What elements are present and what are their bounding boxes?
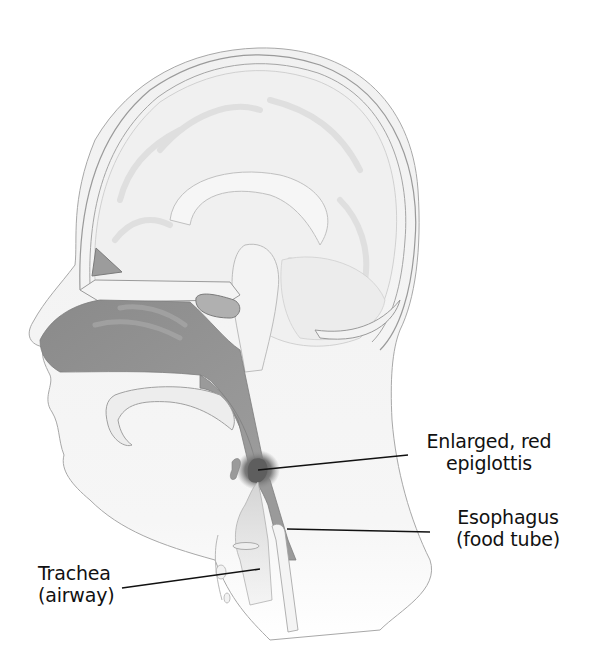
- label-epiglottis-line2: epiglottis: [404, 452, 574, 474]
- tracheal-ring: [233, 543, 259, 550]
- anatomy-diagram: Enlarged, red epiglottis Esophagus (food…: [0, 0, 593, 654]
- label-trachea-line2: (airway): [38, 584, 142, 606]
- label-trachea-line1: Trachea: [38, 562, 142, 584]
- label-esophagus-line1: Esophagus: [438, 506, 578, 528]
- label-esophagus: Esophagus (food tube): [438, 506, 578, 550]
- label-epiglottis-line1: Enlarged, red: [404, 430, 574, 452]
- label-epiglottis: Enlarged, red epiglottis: [404, 430, 574, 474]
- label-trachea: Trachea (airway): [38, 562, 142, 606]
- label-esophagus-line2: (food tube): [438, 528, 578, 550]
- head-neck-illustration: [0, 0, 593, 654]
